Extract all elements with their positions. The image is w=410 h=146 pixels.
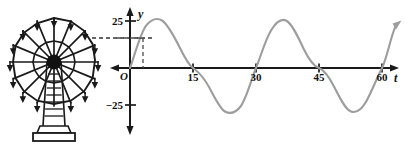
- y-tick-label-neg25: −25: [106, 99, 124, 111]
- y-axis-arrow-up: [126, 7, 133, 16]
- base-lower: [33, 133, 75, 141]
- wheel-hub: [47, 55, 62, 70]
- cabin: [21, 92, 25, 101]
- x-axis-label: t: [394, 71, 398, 85]
- sine-curve: [130, 19, 396, 113]
- cabin: [83, 92, 87, 101]
- cabin: [69, 102, 73, 111]
- cabin: [93, 78, 97, 87]
- x-tick-label-30: 30: [251, 71, 263, 83]
- ferris-wheel-sine-figure: 25 −25 15 30 45 60 y t O: [0, 0, 410, 146]
- ferris-wheel-illustration: [8, 17, 100, 141]
- origin-label: O: [120, 70, 128, 82]
- y-axis-arrow-down: [126, 126, 133, 135]
- cabin: [35, 102, 39, 111]
- x-axis-arrow-left: [110, 64, 119, 71]
- x-tick-label-60: 60: [377, 71, 389, 83]
- cabin: [11, 78, 15, 87]
- wheel-base: [33, 126, 75, 141]
- figure-canvas: 25 −25 15 30 45 60 y t O: [0, 0, 410, 146]
- x-tick-label-15: 15: [188, 71, 200, 83]
- y-tick-label-25: 25: [112, 15, 124, 27]
- x-tick-label-45: 45: [314, 71, 326, 83]
- cabin: [35, 20, 39, 29]
- y-axis-label: y: [136, 7, 144, 21]
- base-upper: [37, 126, 71, 133]
